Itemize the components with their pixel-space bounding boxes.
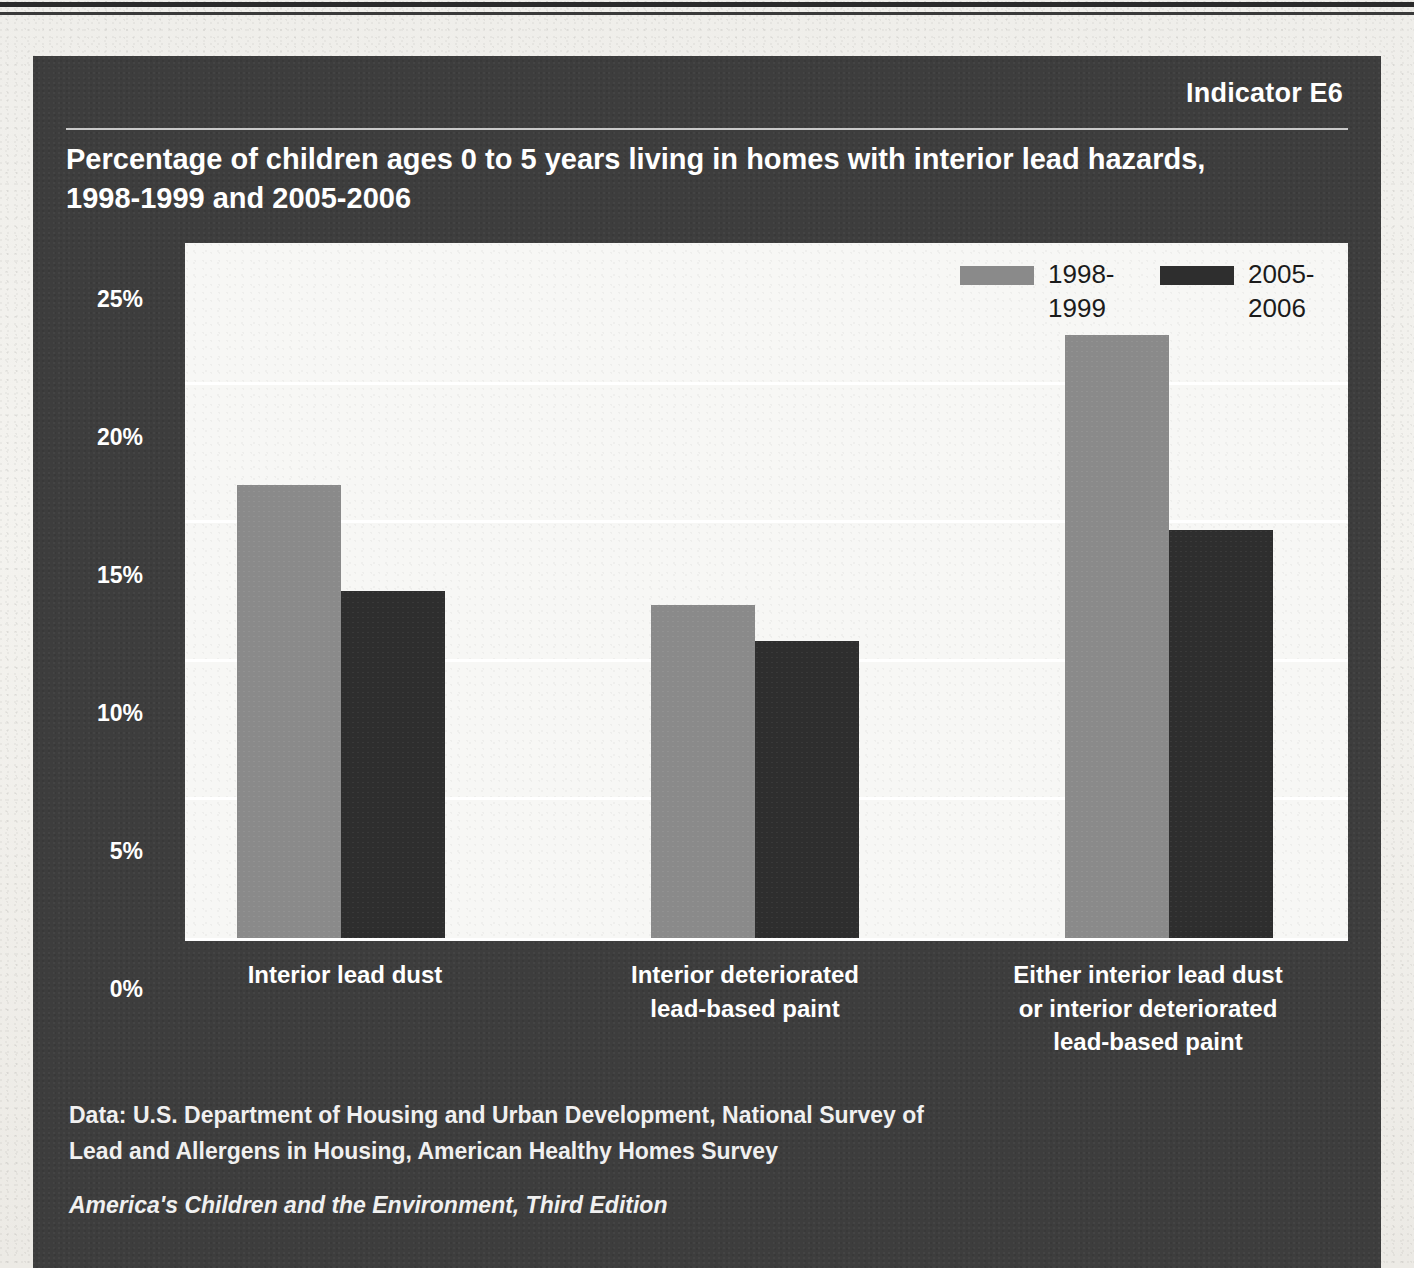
x-axis-label-interior-lead-dust: Interior lead dust [185, 958, 505, 992]
data-source-line-2: Lead and Allergens in Housing, American … [69, 1138, 778, 1164]
bar-2005-2006-interior-deteriorated-paint [755, 641, 859, 938]
scanned-page: Indicator E6 Percentage of children ages… [0, 0, 1414, 1268]
bar-2005-2006-interior-lead-dust [341, 591, 445, 938]
bar-2005-2006-either [1169, 530, 1273, 938]
bar-group-either [1065, 243, 1280, 938]
y-axis-tick-0: 0% [23, 976, 143, 1003]
x-axis-label-line: Interior deteriorated [631, 961, 859, 988]
x-axis-label-line: lead-based paint [1053, 1028, 1242, 1055]
y-axis-tick-20: 20% [23, 424, 143, 451]
y-axis-tick-5: 5% [23, 838, 143, 865]
bar-group-interior-lead-dust [237, 243, 452, 938]
bar-1998-1999-interior-deteriorated-paint [651, 605, 755, 938]
x-axis-label-line: Either interior lead dust [1013, 961, 1282, 988]
legend-swatch-1998-1999 [960, 266, 1034, 285]
bar-1998-1999-either [1065, 335, 1169, 938]
plot-area: 1998-1999 2005-2006 [185, 243, 1348, 938]
title-divider [66, 128, 1348, 130]
x-axis-label-line: lead-based paint [650, 995, 839, 1022]
page-top-rule-outer [0, 2, 1414, 7]
indicator-label: Indicator E6 [1186, 78, 1343, 109]
data-source-line-1: Data: U.S. Department of Housing and Urb… [69, 1102, 924, 1128]
y-axis-tick-15: 15% [23, 562, 143, 589]
y-axis-tick-10: 10% [23, 700, 143, 727]
data-source-note: Data: U.S. Department of Housing and Urb… [69, 1098, 1169, 1169]
chart-title: Percentage of children ages 0 to 5 years… [66, 140, 1246, 218]
figure-panel: Indicator E6 Percentage of children ages… [33, 56, 1381, 1268]
x-axis-label-either: Either interior lead dust or interior de… [983, 958, 1313, 1059]
gridline-0 [185, 938, 1348, 941]
x-axis-label-line: or interior deteriorated [1019, 995, 1278, 1022]
x-axis-label-interior-deteriorated-paint: Interior deteriorated lead-based paint [585, 958, 905, 1025]
y-axis-tick-25: 25% [23, 286, 143, 313]
page-top-rule-inner [0, 12, 1414, 15]
publication-title: America's Children and the Environment, … [69, 1192, 667, 1219]
bar-group-interior-deteriorated-paint [651, 243, 866, 938]
x-axis-label-line: Interior lead dust [248, 961, 443, 988]
bar-1998-1999-interior-lead-dust [237, 485, 341, 938]
